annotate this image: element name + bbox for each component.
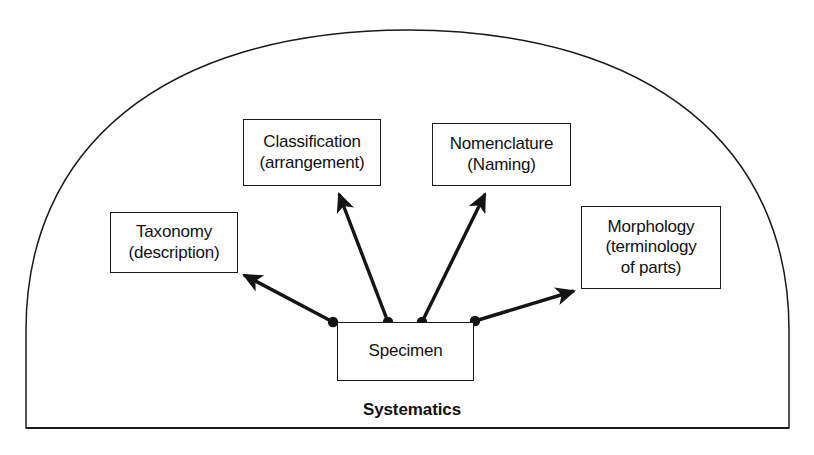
node-specimen: Specimen: [337, 322, 474, 381]
connector-specimen-to-morphology: [475, 291, 574, 321]
node-taxonomy-line-2: (description): [129, 243, 220, 263]
node-classification-line-1: Classification: [263, 132, 360, 152]
node-morphology-line-2: (terminology: [605, 237, 696, 257]
node-specimen-line-1: Specimen: [369, 341, 443, 361]
node-taxonomy: Taxonomy (description): [110, 212, 238, 273]
systematics-diagram: Classification (arrangement) Nomenclatur…: [0, 0, 814, 455]
connector-specimen-to-taxonomy: [244, 275, 333, 322]
node-nomenclature: Nomenclature (Naming): [432, 123, 571, 186]
node-classification-line-2: (arrangement): [259, 153, 364, 173]
systematics-container-label-text: Systematics: [363, 400, 461, 420]
systematics-container-label: Systematics: [0, 400, 814, 420]
connector-specimen-to-nomenclature: [422, 194, 485, 322]
node-taxonomy-line-1: Taxonomy: [136, 222, 212, 242]
node-nomenclature-line-1: Nomenclature: [450, 134, 553, 154]
node-nomenclature-line-2: (Naming): [467, 155, 535, 175]
node-morphology-line-3: of parts): [621, 258, 682, 278]
node-classification: Classification (arrangement): [243, 119, 381, 186]
node-morphology-line-1: Morphology: [608, 217, 695, 237]
node-morphology: Morphology (terminology of parts): [581, 206, 721, 289]
connector-specimen-to-classification: [339, 194, 388, 322]
